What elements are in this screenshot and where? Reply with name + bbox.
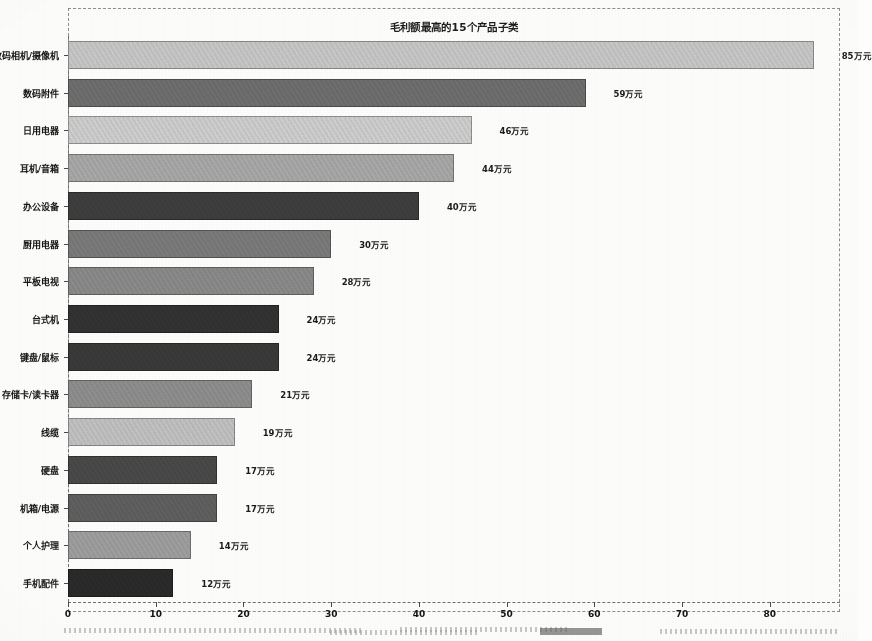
x-axis-label: 80 — [764, 609, 777, 619]
x-axis-label: 60 — [588, 609, 601, 619]
bar — [68, 569, 173, 597]
bar-row: 平板电视28万元 — [68, 263, 840, 299]
bar — [68, 79, 586, 107]
bar — [68, 154, 454, 182]
x-axis-line — [68, 602, 840, 604]
bar-row: 键盘/鼠标24万元 — [68, 339, 840, 375]
bar-row: 数码附件59万元 — [68, 75, 840, 111]
x-axis-tick — [594, 602, 595, 607]
bar-value-label: 17万元 — [245, 464, 275, 476]
x-axis-label: 20 — [237, 609, 250, 619]
bar-value-label: 14万元 — [219, 539, 249, 551]
x-axis-tick — [419, 602, 420, 607]
y-axis-label: 线缆 — [41, 426, 59, 439]
bar-value-label: 21万元 — [280, 388, 310, 400]
x-axis-tick — [243, 602, 244, 607]
bar — [68, 380, 252, 408]
x-axis-tick — [770, 602, 771, 607]
bar-value-label: 30万元 — [359, 238, 389, 250]
bar-row: 数码相机/摄像机85万元 — [68, 37, 840, 73]
y-axis-label: 键盘/鼠标 — [20, 350, 59, 363]
x-axis-label: 40 — [413, 609, 426, 619]
bar — [68, 305, 279, 333]
bar-row: 机箱/电源17万元 — [68, 490, 840, 526]
y-axis-label: 办公设备 — [23, 199, 59, 212]
y-axis-label: 存储卡/读卡器 — [2, 388, 59, 401]
y-axis-label: 数码附件 — [23, 86, 59, 99]
bar — [68, 343, 279, 371]
bar-value-label: 40万元 — [447, 200, 477, 212]
bar-row: 线缆19万元 — [68, 414, 840, 450]
x-axis-label: 10 — [149, 609, 162, 619]
bar — [68, 456, 217, 484]
x-axis-tick — [156, 602, 157, 607]
bar — [68, 418, 235, 446]
bar-row: 手机配件12万元 — [68, 565, 840, 601]
bar — [68, 267, 314, 295]
x-axis-tick — [507, 602, 508, 607]
bar-row: 厨用电器30万元 — [68, 226, 840, 262]
bar — [68, 192, 419, 220]
bar-row: 存储卡/读卡器21万元 — [68, 376, 840, 412]
bar-row: 台式机24万元 — [68, 301, 840, 337]
x-axis-tick — [68, 602, 69, 607]
x-axis-label: 50 — [500, 609, 513, 619]
x-axis-label: 0 — [65, 609, 71, 619]
bar — [68, 494, 217, 522]
bar — [68, 41, 814, 69]
y-axis-label: 台式机 — [32, 313, 59, 326]
plot-area: 数码相机/摄像机85万元数码附件59万元日用电器46万元耳机/音箱44万元办公设… — [68, 36, 840, 602]
y-axis-label: 耳机/音箱 — [20, 162, 59, 175]
bar-value-label: 59万元 — [614, 87, 644, 99]
bar-value-label: 46万元 — [500, 124, 530, 136]
y-axis-label: 数码相机/摄像机 — [0, 48, 59, 61]
y-axis-label: 日用电器 — [23, 124, 59, 137]
chart-title: 毛利额最高的15个产品子类 — [69, 19, 839, 34]
x-axis-label: 30 — [325, 609, 338, 619]
bar-value-label: 17万元 — [245, 502, 275, 514]
x-axis-tick — [682, 602, 683, 607]
y-axis-label: 硬盘 — [41, 463, 59, 476]
bar-row: 日用电器46万元 — [68, 112, 840, 148]
bar-row: 办公设备40万元 — [68, 188, 840, 224]
bar-row: 个人护理14万元 — [68, 527, 840, 563]
bar-value-label: 12万元 — [201, 577, 231, 589]
bar-value-label: 19万元 — [263, 426, 293, 438]
y-axis-label: 机箱/电源 — [20, 501, 59, 514]
bar-row: 耳机/音箱44万元 — [68, 150, 840, 186]
y-axis-label: 个人护理 — [23, 539, 59, 552]
y-axis-label: 厨用电器 — [23, 237, 59, 250]
bar — [68, 230, 331, 258]
bar — [68, 531, 191, 559]
bar-row: 硬盘17万元 — [68, 452, 840, 488]
bar-value-label: 28万元 — [342, 275, 372, 287]
bar-value-label: 24万元 — [307, 313, 337, 325]
bar-value-label: 44万元 — [482, 162, 512, 174]
x-axis-tick — [331, 602, 332, 607]
scan-artifacts — [0, 624, 858, 641]
bar — [68, 116, 472, 144]
y-axis-label: 平板电视 — [23, 275, 59, 288]
x-axis-label: 70 — [676, 609, 689, 619]
bar-value-label: 85万元 — [842, 49, 872, 61]
y-axis-label: 手机配件 — [23, 577, 59, 590]
bar-value-label: 24万元 — [307, 351, 337, 363]
